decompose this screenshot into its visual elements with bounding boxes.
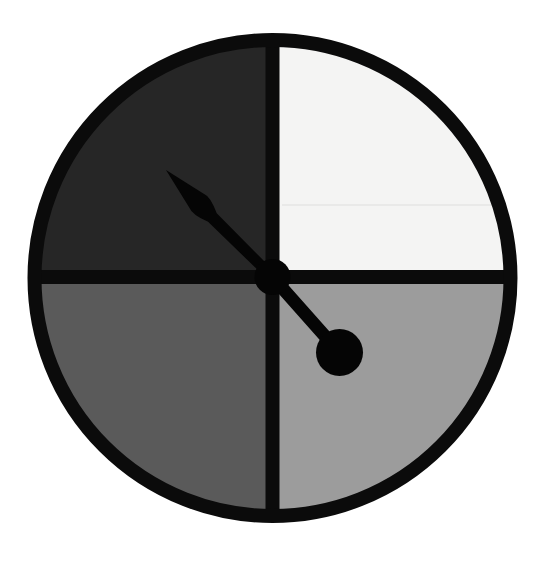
quadrant-dial-graphic xyxy=(0,0,547,563)
pointer-counterweight-ball[interactable] xyxy=(316,329,363,376)
pointer-hub[interactable] xyxy=(255,259,291,295)
dial-figure-canvas: A circular dial divided into four equal … xyxy=(0,0,547,563)
